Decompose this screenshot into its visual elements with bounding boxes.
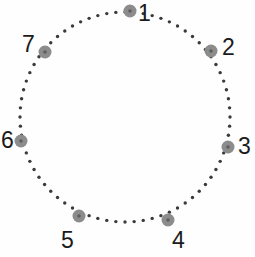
circle-dot [71, 206, 74, 209]
circle-dot [63, 201, 66, 204]
circle-dot [114, 11, 117, 14]
circle-dot [96, 14, 99, 17]
circle-dot [214, 63, 217, 66]
node-label-5: 5 [61, 229, 74, 252]
circle-dot [209, 176, 212, 179]
circle-dot [191, 35, 194, 38]
node-label-6: 6 [1, 129, 14, 152]
circle-dot [228, 106, 231, 109]
circle-dot [114, 220, 117, 223]
circle-dot [56, 35, 59, 38]
cycle-diagram-svg [0, 0, 255, 257]
circle-dot [19, 106, 22, 109]
node-label-4: 4 [172, 229, 185, 252]
graph-node-core-6 [19, 139, 23, 143]
circle-dot [19, 124, 22, 127]
circle-dot [123, 220, 126, 223]
circle-dot [150, 14, 153, 17]
circle-dot [168, 210, 171, 213]
circle-dot [218, 160, 221, 163]
node-markers-group [15, 5, 235, 227]
circle-dot [28, 71, 31, 74]
circle-dot [204, 183, 207, 186]
node-label-1: 1 [138, 2, 151, 25]
circle-dot [49, 190, 52, 193]
circle-dot [37, 176, 40, 179]
circle-dot [79, 20, 82, 23]
circle-dot [159, 17, 162, 20]
circle-dot [32, 168, 35, 171]
circle-dot [105, 12, 108, 15]
circle-dot [63, 29, 66, 32]
circle-dot [198, 190, 201, 193]
node-label-3: 3 [238, 135, 251, 158]
circle-dot [56, 196, 59, 199]
circle-dot [96, 217, 99, 220]
circle-dot [22, 88, 25, 91]
graph-node-core-4 [166, 218, 170, 222]
graph-node-core-1 [128, 9, 132, 13]
circle-dot [214, 168, 217, 171]
circle-dot [71, 24, 74, 27]
graph-node-core-3 [226, 145, 230, 149]
circle-dot [49, 41, 52, 44]
circle-dot [28, 160, 31, 163]
node-label-7: 7 [22, 33, 35, 56]
circle-dot [87, 214, 90, 217]
circle-dot [176, 206, 179, 209]
circle-dot [218, 71, 221, 74]
graph-node-core-2 [209, 49, 213, 53]
circle-dot [43, 183, 46, 186]
circle-dot [227, 134, 230, 137]
circle-dot [176, 24, 179, 27]
circle-dot [228, 124, 231, 127]
circle-dot [191, 196, 194, 199]
circle-dot [142, 219, 145, 222]
node-label-2: 2 [222, 36, 235, 59]
graph-node-core-5 [77, 214, 81, 218]
circle-dot [18, 115, 21, 118]
circle-dot [32, 63, 35, 66]
circle-dot [25, 151, 28, 154]
graph-node-core-7 [43, 50, 47, 54]
circle-dot [168, 20, 171, 23]
circle-dot [87, 17, 90, 20]
diagram-canvas: 1234567 [0, 0, 255, 257]
circle-dot [150, 217, 153, 220]
circle-dot [184, 29, 187, 32]
circle-dot [25, 79, 28, 82]
circle-dot [132, 220, 135, 223]
circle-dot [198, 41, 201, 44]
dotted-circle-path [18, 10, 231, 223]
circle-dot [159, 214, 162, 217]
circle-dot [228, 115, 231, 118]
circle-dot [222, 79, 225, 82]
circle-dot [225, 88, 228, 91]
circle-dot [20, 97, 23, 100]
circle-dot [184, 201, 187, 204]
circle-dot [227, 97, 230, 100]
circle-dot [105, 219, 108, 222]
